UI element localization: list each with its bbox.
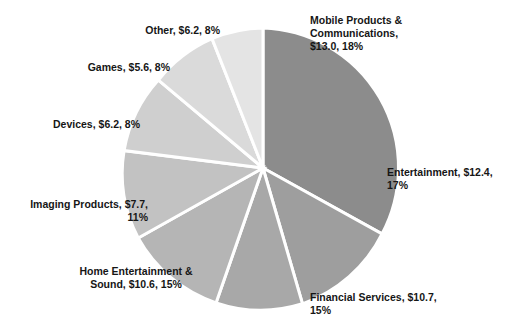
pie-label-devices: Devices, $6.2, 8% [10,118,140,131]
pie-label-entertainment: Entertainment, $12.4, 17% [387,166,507,192]
pie-label-other: Other, $6.2, 8% [70,24,220,37]
pie-label-financial-services: Financial Services, $10.7, 15% [310,291,455,317]
pie-label-games: Games, $5.6, 8% [30,61,170,74]
pie-chart: Mobile Products & Communications, $13.0,… [0,0,510,331]
pie-label-home-entertainment-sound: Home Entertainment & Sound, $10.6, 15% [56,265,216,291]
pie-label-mobile-products-communications: Mobile Products & Communications, $13.0,… [310,14,460,53]
pie-label-imaging-products: Imaging Products, $7.7, 11% [8,198,148,224]
